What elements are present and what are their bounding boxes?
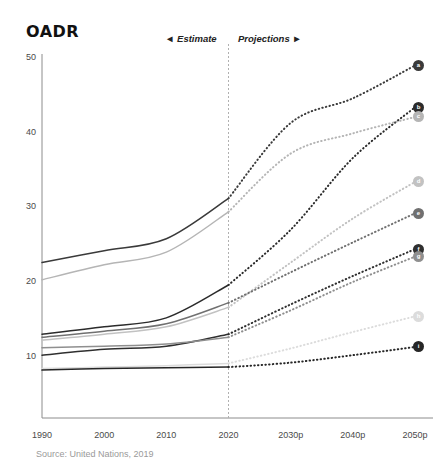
oadr-chart: OADR ◄ Estimate Projections ► 1020304050… bbox=[0, 0, 440, 470]
series-marker-series-h: h bbox=[413, 311, 424, 322]
series-line-projection-series-a bbox=[229, 65, 416, 198]
x-tick-2020: 2020 bbox=[206, 430, 252, 440]
series-line-projection-series-h bbox=[229, 316, 416, 363]
source-note: Source: United Nations, 2019 bbox=[36, 449, 154, 459]
series-line-estimate-series-g bbox=[42, 337, 229, 347]
x-tick-2010: 2010 bbox=[143, 430, 189, 440]
series-line-projection-series-d bbox=[229, 182, 416, 307]
y-tick-20: 20 bbox=[14, 276, 36, 286]
chart-canvas bbox=[0, 0, 440, 470]
y-tick-40: 40 bbox=[14, 127, 36, 137]
series-line-projection-series-g bbox=[229, 257, 416, 338]
x-tick-2030p: 2030p bbox=[268, 430, 314, 440]
x-tick-1990: 1990 bbox=[19, 430, 65, 440]
series-marker-series-e: e bbox=[413, 208, 424, 219]
y-tick-10: 10 bbox=[14, 351, 36, 361]
y-tick-50: 50 bbox=[14, 52, 36, 62]
x-tick-2050p: 2050p bbox=[392, 430, 438, 440]
series-marker-series-a: a bbox=[413, 60, 424, 71]
series-line-projection-series-b bbox=[229, 107, 416, 285]
series-line-estimate-series-a bbox=[42, 198, 229, 262]
series-line-estimate-series-b bbox=[42, 285, 229, 334]
x-tick-2040p: 2040p bbox=[330, 430, 376, 440]
y-tick-30: 30 bbox=[14, 201, 36, 211]
chart-axes bbox=[42, 44, 433, 418]
series-line-estimate-series-e bbox=[42, 303, 229, 337]
x-tick-2000: 2000 bbox=[81, 430, 127, 440]
